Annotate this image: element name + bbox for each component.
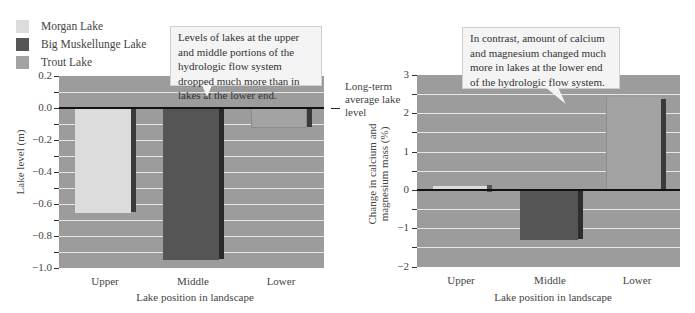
x-tick-label-lower: Lower [597,274,677,286]
y-tick [412,171,417,172]
y-tick [412,190,417,191]
gridline [417,94,680,95]
bar-middle-big-muskellunge-lake [163,108,219,260]
legend-item-big-muskellunge-lake: Big Muskellunge Lake [16,36,146,52]
left-y-axis-title: Lake level (m) [14,117,26,207]
y-tick [54,268,59,269]
bar-upper-morgan-lake [75,108,131,213]
left-plot-area [59,76,324,268]
y-tick [412,94,417,95]
right-x-axis-title: Lake position in landscape [468,291,638,303]
y-tick [54,108,59,109]
legend-label: Morgan Lake [41,20,103,32]
legend-label: Big Muskellunge Lake [41,38,146,50]
gridline [417,247,680,248]
y-tick [412,152,417,153]
bar-middle-big-muskellunge-lake [520,190,578,240]
right-callout: In contrast, amount of calcium and magne… [462,27,620,89]
right-y-axis-title-line1: Change in calcium and [366,114,378,234]
y-tick-label: −0.8 [22,229,52,241]
y-tick [54,188,59,189]
left-callout: Levels of lakes at the upper and middle … [170,26,322,86]
legend-item-morgan-lake: Morgan Lake [16,18,103,34]
bar-side [131,108,136,212]
y-tick [54,252,59,253]
x-tick-label-middle: Middle [510,274,590,286]
y-tick-label: −0.4 [22,165,52,177]
y-tick [54,92,59,93]
legend-swatch-big-muskellunge [16,38,29,51]
bar-side [307,108,312,127]
right-y-axis-title-line2: magnesium mass (%) [378,114,390,234]
y-tick-label: 3 [379,68,409,80]
y-tick [412,247,417,248]
reference-dash [331,108,340,109]
bar-side [661,99,666,190]
bar-lower-trout-lake [251,108,307,128]
zero-line [59,107,324,109]
callout-pointer [202,85,212,97]
y-tick-label: −2 [379,260,409,272]
y-tick-label: 0.2 [22,69,52,81]
y-tick [54,76,59,77]
y-tick [412,113,417,114]
x-tick-label-upper: Upper [421,274,501,286]
bar-side [219,108,224,259]
y-tick [412,267,417,268]
legend-item-trout-lake: Trout Lake [16,54,92,70]
left-x-axis-title: Lake position in landscape [110,291,280,303]
y-tick [412,132,417,133]
x-tick-label-upper: Upper [65,275,145,287]
y-tick [412,228,417,229]
y-tick [54,156,59,157]
bar-lower-trout-lake [606,97,661,190]
y-tick [54,236,59,237]
y-tick [54,172,59,173]
y-tick-label: −0.2 [22,133,52,145]
bar-side [578,190,583,239]
y-tick [54,124,59,125]
right-plot-area [417,75,680,267]
y-tick [412,209,417,210]
legend-swatch-morgan [16,20,29,33]
x-tick-label-lower: Lower [241,275,321,287]
y-tick [54,140,59,141]
y-tick [54,220,59,221]
right-y-axis-title: Change in calcium and magnesium mass (%) [366,114,390,234]
legend-label: Trout Lake [41,56,92,68]
y-tick-label: −1.0 [22,261,52,273]
zero-line [417,189,680,191]
legend-swatch-trout [16,56,29,69]
y-tick [412,75,417,76]
x-tick-label-middle: Middle [153,275,233,287]
y-tick-label: −0.6 [22,197,52,209]
y-tick-label: 0.0 [22,101,52,113]
y-tick [54,204,59,205]
